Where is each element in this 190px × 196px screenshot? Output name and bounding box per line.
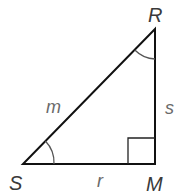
side-label-r: r [97, 171, 104, 191]
angle-arc-r [135, 50, 155, 59]
right-angle-mark [128, 138, 155, 164]
side-label-s: s [165, 98, 174, 118]
vertex-label-m: M [146, 173, 163, 195]
triangle-diagram: R S M m s r [0, 0, 190, 196]
angle-arc-s [45, 141, 54, 164]
triangle-srm [23, 29, 155, 164]
vertex-label-s: S [9, 172, 23, 194]
vertex-label-r: R [148, 4, 162, 26]
side-label-m: m [46, 97, 61, 117]
triangle-svg: R S M m s r [0, 0, 190, 196]
